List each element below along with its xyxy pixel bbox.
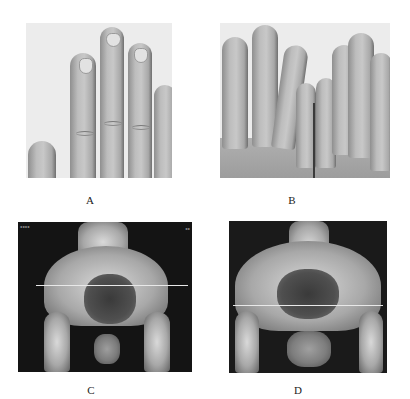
finger-ring — [128, 43, 152, 178]
measurement-line — [233, 305, 383, 306]
finger — [370, 53, 390, 171]
soft-tissue — [287, 331, 331, 367]
panel-label-c: C — [81, 384, 101, 396]
knuckle — [132, 125, 150, 130]
panel-c-pelvic-xray: ▪▪▪▪ ▪▪ — [18, 222, 192, 372]
panel-b-hands-photo — [220, 23, 390, 178]
panel-label-a: A — [80, 194, 100, 206]
xray-annotation: ▪▪ — [185, 226, 190, 231]
pelvic-cavity — [277, 269, 339, 319]
finger — [222, 37, 248, 149]
panel-label-d: D — [288, 384, 308, 396]
finger-little — [154, 85, 172, 178]
xray-annotation: ▪▪▪▪ — [20, 224, 30, 229]
femur-left — [144, 312, 170, 372]
thumb — [28, 141, 56, 178]
knuckle — [104, 121, 122, 126]
femur-left — [359, 311, 383, 373]
femur-right — [235, 311, 259, 373]
panel-d-pelvic-xray — [229, 221, 387, 373]
knuckle — [76, 131, 94, 136]
nail — [79, 58, 93, 74]
nail — [134, 48, 148, 63]
finger-middle — [100, 27, 124, 178]
measurement-line — [36, 285, 188, 286]
panel-label-b: B — [282, 194, 302, 206]
femur-right — [44, 312, 70, 372]
soft-tissue — [94, 334, 120, 364]
crease — [313, 103, 315, 178]
panel-a-hand-photo — [26, 23, 172, 178]
pelvic-cavity — [84, 274, 136, 324]
